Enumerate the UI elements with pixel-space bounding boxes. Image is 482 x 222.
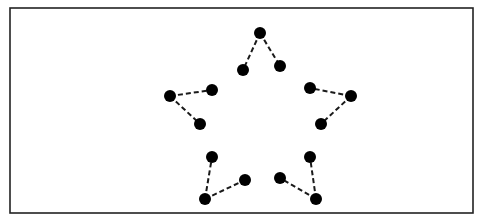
top-tip-inner-dot-1 xyxy=(237,64,249,76)
bottom-right-tip-connector-1 xyxy=(310,157,316,199)
bottom-right-tip-connector-2 xyxy=(280,178,316,199)
left-tip-connector-2 xyxy=(170,96,200,124)
right-tip-inner-dot-2 xyxy=(315,118,327,130)
bottom-right-tip-inner-dot-1 xyxy=(304,151,316,163)
top-tip-inner-dot-2 xyxy=(274,60,286,72)
right-tip-connector-2 xyxy=(321,96,351,124)
left-tip-dot xyxy=(164,90,176,102)
top-tip-dot xyxy=(254,27,266,39)
right-tip-inner-dot-1 xyxy=(304,82,316,94)
top-tip-connector-1 xyxy=(243,33,260,70)
dashed-connectors xyxy=(170,33,351,199)
dots xyxy=(164,27,357,205)
left-tip-connector-1 xyxy=(170,90,212,96)
star-dot-diagram xyxy=(0,0,482,222)
bottom-left-tip-dot xyxy=(199,193,211,205)
right-tip-dot xyxy=(345,90,357,102)
bottom-left-tip-inner-dot-1 xyxy=(206,151,218,163)
bottom-left-tip-inner-dot-2 xyxy=(239,174,251,186)
left-tip-inner-dot-1 xyxy=(206,84,218,96)
left-tip-inner-dot-2 xyxy=(194,118,206,130)
right-tip-connector-1 xyxy=(310,88,351,96)
bottom-left-tip-connector-1 xyxy=(205,157,212,199)
bottom-right-tip-inner-dot-2 xyxy=(274,172,286,184)
bottom-right-tip-dot xyxy=(310,193,322,205)
diagram-canvas xyxy=(0,0,482,222)
bottom-left-tip-connector-2 xyxy=(205,180,245,199)
